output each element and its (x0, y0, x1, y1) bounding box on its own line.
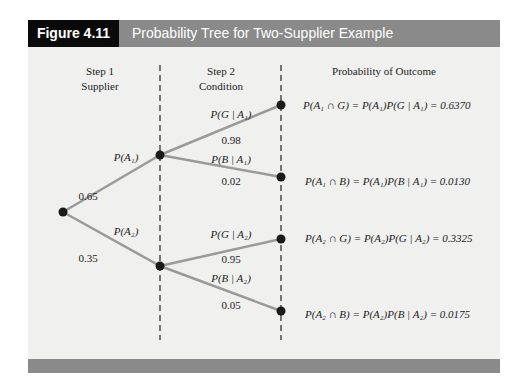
branch-b-a2-label: P(B | A₂) (210, 272, 251, 285)
branch-a2-value: 0.35 (78, 252, 98, 264)
node-a1 (156, 151, 165, 160)
outcome-a1-g: P(A₁ ∩ G) = P(A₁)P(G | A₁) = 0.6370 (302, 99, 471, 112)
node-a1-b (277, 173, 286, 182)
branch-g-a2-value: 0.95 (221, 253, 241, 265)
branch-a1-value: 0.65 (78, 190, 98, 202)
branch-g-a2-label: P(G | A₂) (210, 228, 252, 241)
branch-a2-label: P(A₂) (113, 225, 139, 238)
outcome-a2-g: P(A₂ ∩ G) = P(A₂)P(G | A₂) = 0.3325 (304, 232, 473, 245)
branch-g-a1-label: P(G | A₁) (210, 108, 252, 121)
root-node (59, 208, 68, 217)
node-a2-b (277, 307, 286, 316)
node-a2-g (277, 235, 286, 244)
probability-tree: Step 1 Supplier Step 2 Condition Probabi… (0, 0, 523, 389)
step2-heading: Step 2 (207, 65, 235, 77)
outcome-heading: Probability of Outcome (332, 65, 436, 77)
outcome-a2-b: P(A₂ ∩ B) = P(A₂)P(B | A₂) = 0.0175 (304, 308, 471, 321)
outcome-a1-b: P(A₁ ∩ B) = P(A₁)P(B | A₁) = 0.0130 (304, 175, 471, 188)
branch-g-a1-value: 0.98 (221, 134, 241, 146)
branch-a1-label: P(A₁) (113, 151, 139, 164)
node-a1-g (277, 101, 286, 110)
step2-subheading: Condition (199, 80, 244, 92)
branch-b-a1-label: P(B | A₁) (210, 153, 251, 166)
node-a2 (156, 262, 165, 271)
step1-subheading: Supplier (81, 80, 119, 92)
step1-heading: Step 1 (86, 65, 114, 77)
branch-b-a1-value: 0.02 (221, 175, 240, 187)
branch-b-a2-value: 0.05 (221, 299, 241, 311)
